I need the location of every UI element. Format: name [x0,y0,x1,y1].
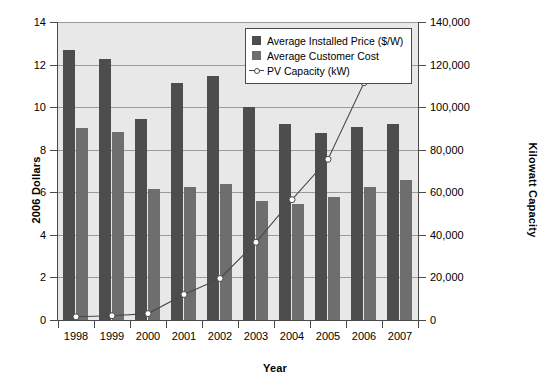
pv-capacity-marker-2000 [145,311,151,317]
legend-line-marker-icon [252,66,261,75]
chart-container: 2006 Dollars Kilowatt Capacity Year 0246… [0,0,550,380]
legend: Average Installed Price ($/W) Average Cu… [245,28,412,84]
pv-capacity-marker-2005 [325,156,331,162]
legend-item-label: PV Capacity (kW) [267,65,350,77]
legend-item-label: Average Installed Price ($/W) [267,35,403,47]
pv-capacity-polyline [76,47,400,317]
pv-capacity-marker-2004 [289,197,295,203]
pv-capacity-marker-2002 [217,276,223,282]
legend-swatch-icon [252,36,261,45]
pv-capacity-marker-2003 [253,239,259,245]
pv-capacity-marker-1998 [73,314,79,320]
legend-swatch-icon [252,51,261,60]
pv-capacity-marker-1999 [109,313,115,319]
pv-capacity-marker-2001 [181,292,187,298]
legend-item-installed-price: Average Installed Price ($/W) [252,33,403,48]
legend-item-customer-cost: Average Customer Cost [252,48,403,63]
legend-item-label: Average Customer Cost [267,50,379,62]
legend-item-pv-capacity: PV Capacity (kW) [252,63,403,78]
